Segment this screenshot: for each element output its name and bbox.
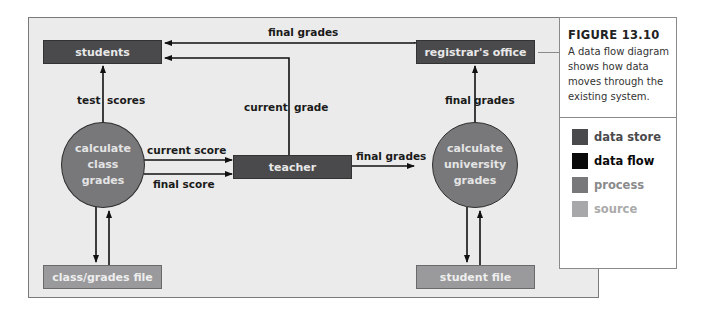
- legend-label: data store: [594, 130, 661, 144]
- flow-label-grade: grade: [294, 101, 328, 113]
- process-swatch-icon: [572, 177, 588, 193]
- data-store-teacher: teacher: [233, 155, 352, 179]
- data-flow-swatch-icon: [572, 153, 588, 169]
- figure-caption: A data flow diagram shows how data moves…: [568, 44, 674, 104]
- students-label: students: [75, 46, 130, 59]
- class-file-label: class/grades file: [52, 271, 153, 284]
- flow-label-final-score: final score: [153, 178, 215, 190]
- process-line: grades: [454, 173, 497, 189]
- flow-label-current-score: current score: [147, 144, 226, 156]
- legend-item-source: source: [572, 201, 637, 217]
- flow-label-final: final: [445, 94, 471, 106]
- source-student-file: student file: [416, 265, 535, 289]
- caption-connector-line: [538, 52, 559, 53]
- caption-divider: [560, 117, 676, 118]
- flow-label-current: current: [244, 101, 288, 113]
- legend-item-process: process: [572, 177, 644, 193]
- process-line: calculate: [447, 141, 503, 157]
- legend-label: source: [594, 202, 637, 216]
- figure-label: FIGURE 13.10: [568, 28, 660, 42]
- student-file-label: student file: [440, 271, 511, 284]
- flow-label-grades: grades: [474, 94, 515, 106]
- process-line: grades: [82, 173, 125, 189]
- data-store-swatch-icon: [572, 129, 588, 145]
- teacher-label: teacher: [269, 161, 316, 174]
- process-calculate-class-grades: calculate class grades: [61, 122, 145, 208]
- flow-label-final-grades-top: final grades: [268, 26, 338, 38]
- process-line: university: [444, 157, 506, 173]
- source-class-grades-file: class/grades file: [43, 265, 162, 289]
- legend-label: process: [594, 178, 644, 192]
- registrar-label: registrar's office: [424, 46, 526, 59]
- data-store-students: students: [43, 40, 162, 64]
- flow-label-final-grades-mid: final grades: [356, 150, 426, 162]
- flow-label-test: test: [77, 94, 100, 106]
- legend-item-data-store: data store: [572, 129, 661, 145]
- data-store-registrars-office: registrar's office: [416, 40, 535, 64]
- process-line: calculate: [75, 141, 131, 157]
- legend-item-data-flow: data flow: [572, 153, 654, 169]
- flow-label-scores: scores: [107, 94, 145, 106]
- process-calculate-university-grades: calculate university grades: [432, 122, 518, 208]
- legend-label: data flow: [594, 154, 654, 168]
- source-swatch-icon: [572, 201, 588, 217]
- process-line: class: [88, 157, 119, 173]
- figure-caption-box: FIGURE 13.10 A data flow diagram shows h…: [559, 17, 677, 269]
